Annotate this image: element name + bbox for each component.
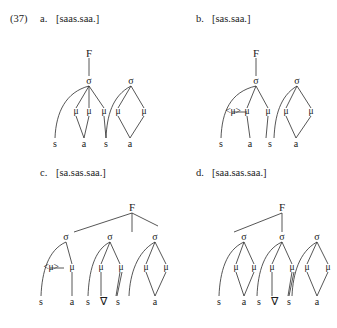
tree-a-segment-2: a (82, 139, 86, 149)
item-letter-d: d. (196, 168, 204, 179)
tree-d-foot-node: F (279, 202, 285, 213)
tree-b-sigma-1: σ (253, 76, 258, 86)
tree-d-mora-2: μ (251, 263, 256, 273)
example-number: (37) (10, 14, 28, 25)
tree-b-mora-2: μ (244, 107, 249, 117)
item-form-d: [saa.sas.saa.] (212, 168, 267, 179)
tree-a-mora-4: μ (115, 107, 120, 117)
tree-d-segment-2: a (242, 297, 246, 307)
tree-c-segment-3: s (86, 297, 90, 307)
item-letter-c: c. (40, 168, 47, 179)
item-letter-b: b. (196, 14, 204, 25)
tree-c-mora-2: μ (69, 263, 74, 273)
tree-d-segment-4-empty-vowel: ∇ (271, 297, 278, 308)
tree-d-mora-1: μ (233, 263, 238, 273)
item-form-a: [saas.saa.] (56, 14, 99, 25)
tree-c-segment-5: s (116, 297, 120, 307)
tree-connector-lines (0, 0, 337, 328)
tree-d-mora-5: μ (304, 263, 309, 273)
tree-d-segment-5: s (287, 297, 291, 307)
tree-a-mora-3: μ (101, 107, 106, 117)
tree-d-sigma-1: σ (241, 232, 246, 242)
tree-c-sigma-3: σ (152, 232, 157, 242)
tree-b-mora-deleted: <μ> (226, 107, 241, 117)
tree-b-mora-5: μ (308, 107, 313, 117)
tree-d-mora-6: μ (325, 263, 330, 273)
tree-a-foot-node: F (86, 48, 92, 59)
tree-c-sigma-1: σ (63, 232, 68, 242)
tree-d-mora-4: μ (289, 263, 294, 273)
tree-c-mora-6: μ (163, 263, 168, 273)
tree-b-segment-1: s (219, 139, 223, 149)
tree-b-segment-3: s (268, 139, 272, 149)
item-letter-a: a. (40, 14, 47, 25)
tree-c-mora-5: μ (143, 263, 148, 273)
figure-page: (37) a. [saas.saa.] b. [sas.saa.] c. [sa… (0, 0, 337, 328)
tree-c-mora-4: μ (118, 263, 123, 273)
tree-b-mora-3: μ (265, 107, 270, 117)
tree-c-foot-node: F (129, 202, 135, 213)
tree-d-sigma-2: σ (279, 232, 284, 242)
tree-c-mora-deleted: <μ> (44, 263, 59, 273)
tree-a-mora-1: μ (73, 107, 78, 117)
tree-c-segment-6: a (153, 297, 157, 307)
tree-c-segment-4-empty-vowel: ∇ (100, 297, 107, 308)
tree-c-mora-3: μ (98, 263, 103, 273)
tree-a-mora-2: μ (86, 107, 91, 117)
tree-c-segment-2: a (70, 297, 74, 307)
tree-a-segment-3: s (104, 139, 108, 149)
tree-d-segment-3: s (257, 297, 261, 307)
item-form-c: [sa.sas.saa.] (56, 168, 106, 179)
tree-d-segment-6: a (315, 297, 319, 307)
tree-b-foot-node: F (253, 48, 259, 59)
item-form-b: [sas.saa.] (212, 14, 250, 25)
tree-c-sigma-2: σ (107, 232, 112, 242)
tree-d-segment-1: s (217, 297, 221, 307)
tree-a-mora-5: μ (141, 107, 146, 117)
tree-b-mora-4: μ (283, 107, 288, 117)
tree-a-sigma-2: σ (128, 76, 133, 86)
tree-a-segment-1: s (53, 139, 57, 149)
tree-b-sigma-2: σ (294, 76, 299, 86)
tree-d-mora-3: μ (269, 263, 274, 273)
tree-c-segment-1: s (39, 297, 43, 307)
tree-b-segment-4: a (294, 139, 298, 149)
tree-d-sigma-3: σ (314, 232, 319, 242)
tree-a-segment-4: a (128, 139, 132, 149)
tree-b-segment-2: a (248, 139, 252, 149)
tree-a-sigma-1: σ (86, 76, 91, 86)
